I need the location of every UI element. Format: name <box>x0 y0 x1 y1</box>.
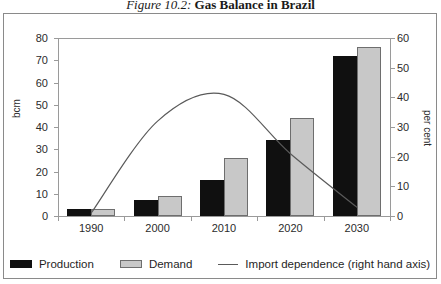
x-axis-tick-0 <box>58 217 59 221</box>
page-title: Figure 10.2: Gas Balance in Brazil <box>0 0 441 13</box>
figure-number: Figure 10.2: <box>126 0 191 12</box>
y-left-tick-40 <box>54 127 58 128</box>
bar-demand-2000 <box>158 196 182 216</box>
y-left-tick-label-60: 60 <box>8 78 48 89</box>
y-right-tick-label-50: 50 <box>397 63 437 74</box>
y-left-tick-label-80: 80 <box>8 33 48 44</box>
y-left-tick-label-40: 40 <box>8 122 48 133</box>
legend-label-1: Production <box>39 258 94 270</box>
y-left-tick-30 <box>54 149 58 150</box>
y-left-tick-70 <box>54 60 58 61</box>
x-axis-label-2010: 2010 <box>194 222 254 234</box>
x-axis-tick-4 <box>324 217 325 221</box>
x-axis-label-2030: 2030 <box>327 222 387 234</box>
chart-page: Figure 10.2: Gas Balance in Brazil 01020… <box>0 0 441 284</box>
y-axis-left-title: bcm <box>12 99 22 118</box>
x-axis-tick-5 <box>390 217 391 221</box>
y-left-tick-60 <box>54 83 58 84</box>
bar-demand-2020 <box>290 118 314 216</box>
x-axis <box>58 216 391 217</box>
y-right-tick-0 <box>391 216 395 217</box>
chart-legend: ProductionDemandImport dependence (right… <box>3 250 437 278</box>
legend-label-3: Import dependence (right hand axis) <box>245 258 430 270</box>
bar-production-2010 <box>200 180 224 216</box>
y-left-tick-label-70: 70 <box>8 55 48 66</box>
plot-top-border <box>58 38 390 39</box>
x-axis-label-2000: 2000 <box>128 222 188 234</box>
legend-swatch-dem-icon <box>120 260 142 268</box>
legend-swatch-line-icon <box>218 264 238 265</box>
y-right-tick-20 <box>391 157 395 158</box>
y-right-tick-30 <box>391 127 395 128</box>
figure-name: Gas Balance in Brazil <box>195 0 315 12</box>
y-right-tick-label-60: 60 <box>397 33 437 44</box>
x-axis-tick-2 <box>191 217 192 221</box>
legend-item-2[interactable]: Demand <box>120 258 192 270</box>
x-axis-tick-1 <box>124 217 125 221</box>
y-right-tick-label-0: 0 <box>397 211 437 222</box>
y-left-tick-80 <box>54 38 58 39</box>
bar-demand-1990 <box>91 209 115 216</box>
legend-label-2: Demand <box>149 258 192 270</box>
y-axis-right-title: per cent <box>422 110 432 146</box>
bar-production-1990 <box>67 209 91 216</box>
bar-demand-2030 <box>357 47 381 216</box>
x-axis-label-1990: 1990 <box>61 222 121 234</box>
legend-item-1[interactable]: Production <box>10 258 94 270</box>
y-left-tick-label-20: 20 <box>8 167 48 178</box>
bar-production-2030 <box>333 56 357 216</box>
y-left-tick-50 <box>54 105 58 106</box>
bar-production-2020 <box>266 140 290 216</box>
legend-item-3[interactable]: Import dependence (right hand axis) <box>218 258 430 270</box>
y-left-tick-label-0: 0 <box>8 211 48 222</box>
y-right-tick-label-10: 10 <box>397 181 437 192</box>
y-axis-left <box>58 38 59 217</box>
legend-swatch-prod-icon <box>10 260 32 268</box>
y-left-tick-20 <box>54 172 58 173</box>
y-right-tick-50 <box>391 68 395 69</box>
y-right-tick-label-40: 40 <box>397 92 437 103</box>
y-left-tick-label-30: 30 <box>8 144 48 155</box>
y-right-tick-40 <box>391 97 395 98</box>
bar-production-2000 <box>134 200 158 216</box>
y-right-tick-60 <box>391 38 395 39</box>
x-axis-tick-3 <box>257 217 258 221</box>
y-left-tick-10 <box>54 194 58 195</box>
y-right-tick-label-20: 20 <box>397 152 437 163</box>
x-axis-label-2020: 2020 <box>260 222 320 234</box>
bar-demand-2010 <box>224 158 248 216</box>
y-left-tick-label-10: 10 <box>8 189 48 200</box>
y-right-tick-10 <box>391 186 395 187</box>
